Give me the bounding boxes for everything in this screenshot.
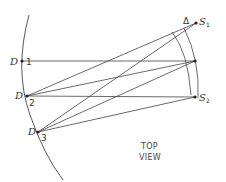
source-2-letter: S [199, 92, 206, 103]
source-dot-1 [194, 21, 197, 24]
source-2-sub: 2 [206, 97, 210, 104]
detector-1-number: 1 [26, 57, 32, 67]
detector-2-letter: D [14, 90, 23, 101]
detector-3-letter: D [27, 126, 36, 137]
caption-line-1: TOP [140, 142, 158, 151]
detector-2-number: 2 [29, 98, 35, 108]
source-dot-2 [193, 95, 196, 98]
detector-1-letter: D [9, 56, 18, 67]
source-dot-mid [193, 59, 196, 62]
screen-arc [22, 15, 63, 180]
caption-line-2: VIEW [139, 153, 161, 162]
rays [22, 23, 196, 132]
detector-dot-3 [36, 130, 39, 133]
interference-diagram: D 1 D 2 D 3 Δ S 1 S 2 TOP VIEW [0, 0, 226, 182]
source-1-sub: 1 [206, 21, 210, 28]
detector-3-number: 3 [41, 133, 47, 143]
source-1-letter: S [199, 16, 206, 27]
delta-label: Δ [183, 16, 190, 26]
detector-dot-1 [20, 59, 23, 62]
